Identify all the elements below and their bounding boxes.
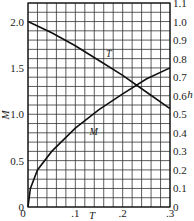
left-tick-label: 2.0 xyxy=(10,16,24,28)
x-axis-title: T xyxy=(89,209,96,221)
right-tick-label: 0.3 xyxy=(173,145,187,157)
grid xyxy=(28,3,170,207)
right-axis-ticks: 00.10.20.30.40.50.60.70.80.91.01.1 xyxy=(173,0,187,213)
right-tick-label: 0.9 xyxy=(173,34,187,46)
right-tick-label: 0.2 xyxy=(173,164,187,176)
right-tick-label: 0.6 xyxy=(173,90,187,102)
right-tick-label: 1.1 xyxy=(173,0,187,9)
series-M-curve xyxy=(28,68,170,207)
x-axis-ticks: 0.1.2.3 xyxy=(20,207,174,219)
left-axis-ticks: 00.51.01.52.0 xyxy=(10,16,24,213)
x-tick-label: .2 xyxy=(119,207,127,219)
right-tick-label: 1.0 xyxy=(173,16,187,28)
curve-label-M: M xyxy=(89,126,99,137)
left-axis-title: M xyxy=(0,110,11,121)
right-axis-title: h xyxy=(187,88,193,100)
right-tick-label: 0.7 xyxy=(173,71,187,83)
right-tick-label: 0.8 xyxy=(173,53,187,65)
left-tick-label: 1.0 xyxy=(10,108,24,120)
left-tick-label: 0.5 xyxy=(10,155,24,167)
left-tick-label: 1.5 xyxy=(10,62,24,74)
x-tick-label: .3 xyxy=(166,207,175,219)
chart: 00.51.01.52.0 00.10.20.30.40.50.60.70.80… xyxy=(0,0,194,221)
right-tick-label: 0.5 xyxy=(173,108,187,120)
right-tick-label: 0.4 xyxy=(173,127,187,139)
x-tick-label: 0 xyxy=(20,207,26,219)
x-tick-label: .1 xyxy=(71,207,79,219)
right-tick-label: 0.1 xyxy=(173,182,187,194)
